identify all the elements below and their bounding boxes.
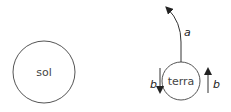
- arrow-b-right: b: [208, 71, 220, 93]
- arrow-b-left: b: [150, 68, 160, 91]
- arrow-a: a: [168, 9, 191, 62]
- sun-body: sol: [13, 41, 75, 103]
- sun-label: sol: [36, 66, 52, 79]
- arrow-b-left-label: b: [150, 78, 157, 91]
- sun-earth-diagram: sol terra a b b: [0, 0, 231, 112]
- arrow-a-label: a: [184, 26, 191, 39]
- arrow-b-right-label: b: [213, 78, 220, 91]
- earth-body: terra: [162, 62, 200, 100]
- earth-label: terra: [168, 75, 195, 88]
